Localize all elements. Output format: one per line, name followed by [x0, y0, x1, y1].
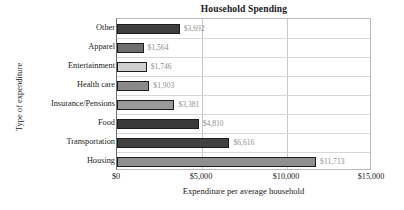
bar-value-label: $1,903 [153, 81, 174, 90]
plot-area: $3,692$1,564$1,746$1,903$3,381$4,810$6,6… [116, 18, 371, 170]
bar[interactable] [117, 138, 229, 148]
chart-title: Household Spending [116, 4, 372, 15]
y-axis-label: Entertainment [3, 61, 115, 71]
bar[interactable] [117, 62, 147, 72]
bar-row[interactable]: $6,616 [117, 133, 254, 152]
bar-value-label: $4,810 [203, 119, 224, 128]
bar-value-label: $11,713 [320, 157, 344, 166]
y-axis-label: Transportation [3, 137, 115, 147]
y-axis-label: Insurance/Pensions [3, 99, 115, 109]
bar[interactable] [117, 81, 149, 91]
bar[interactable] [117, 24, 180, 34]
x-axis-tick: $15,000 [358, 172, 385, 182]
bar-value-label: $3,381 [178, 100, 199, 109]
bar[interactable] [117, 119, 199, 129]
gridline [287, 19, 288, 169]
bar-row[interactable]: $4,810 [117, 114, 224, 133]
bar-value-label: $3,692 [184, 24, 205, 33]
bar-value-label: $1,564 [148, 43, 169, 52]
bar[interactable] [117, 157, 316, 167]
bar-row[interactable]: $3,692 [117, 19, 205, 38]
x-axis-tick-labels: $0$5,000$10,000$15,000 [116, 172, 371, 184]
y-axis-label: Other [3, 23, 115, 33]
y-axis-label: Health care [3, 80, 115, 90]
y-axis-label: Housing [3, 156, 115, 166]
bar-value-label: $6,616 [233, 138, 254, 147]
household-spending-bar-chart: Household Spending Type of expenditure O… [0, 0, 404, 210]
y-axis-label: Food [3, 118, 115, 128]
bar-row[interactable]: $3,381 [117, 95, 199, 114]
bar-value-label: $1,746 [151, 62, 172, 71]
x-axis-tick: $5,000 [190, 172, 213, 182]
y-axis-label: Apparel [3, 42, 115, 52]
x-axis-tick: $10,000 [273, 172, 300, 182]
y-axis-category-labels: OtherApparelEntertainmentHealth careInsu… [0, 18, 115, 170]
bar[interactable] [117, 43, 144, 53]
bar[interactable] [117, 100, 174, 110]
x-axis-title: Expenditure per average household [116, 186, 371, 196]
bar-row[interactable]: $1,564 [117, 38, 168, 57]
bar-row[interactable]: $1,746 [117, 57, 172, 76]
bar-row[interactable]: $11,713 [117, 152, 345, 170]
bar-row[interactable]: $1,903 [117, 76, 174, 95]
x-axis-tick: $0 [112, 172, 120, 182]
